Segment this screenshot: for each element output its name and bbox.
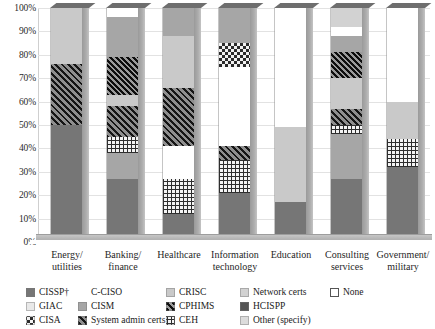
- bar-segment-ceh: [387, 139, 418, 167]
- x-axis-tick-label-line: utilities: [38, 261, 96, 273]
- bar-segment-crisc: [163, 36, 194, 87]
- legend-item-crisc[interactable]: CRISC: [166, 286, 206, 298]
- legend-swatch-crisc-icon: [166, 288, 175, 297]
- y-axis-tick-label: 90%: [2, 26, 36, 36]
- legend-item-cisa[interactable]: CISA: [26, 314, 61, 326]
- bar-segment-cphims: [107, 57, 138, 94]
- legend-swatch-hcispp-icon: [240, 302, 249, 311]
- legend-swatch-sysadmin-icon: [78, 316, 87, 325]
- bar-front-face: [162, 8, 194, 242]
- legend-item-network[interactable]: Network certs: [240, 286, 307, 298]
- legend-label: C-CISO: [91, 287, 122, 297]
- chart-baseline-cap: [30, 240, 432, 244]
- bar-segment-crisc: [51, 8, 82, 64]
- y-axis: 100%90%80%70%60%50%40%30%20%10%0%: [0, 0, 36, 252]
- bar-segment-cissp: [387, 167, 418, 242]
- bar-stack: [50, 8, 82, 242]
- chart-legend: CISSP†GIACCISAC-CISOCISMSystem admin cer…: [0, 286, 435, 329]
- legend-swatch-other-icon: [240, 316, 249, 325]
- bar-stack: [330, 8, 362, 242]
- x-axis-tick-label-line: Banking/: [94, 249, 152, 261]
- bar-segment-cciso: [107, 8, 138, 17]
- bar-segment-cissp: [51, 125, 82, 242]
- x-axis-tick-label: Informationtechnology: [206, 249, 264, 272]
- legend-label: GIAC: [39, 301, 62, 311]
- bar-segment-crisc: [107, 95, 138, 107]
- bar-stack: [274, 8, 306, 242]
- legend-label: System admin certs: [91, 315, 165, 325]
- bar-stack: [218, 8, 250, 242]
- bar-segment-sysadmin: [51, 64, 82, 125]
- bar-segment-cciso: [275, 8, 306, 127]
- bar-segment-ceh: [163, 179, 194, 214]
- x-axis-tick-label-line: technology: [206, 261, 264, 273]
- legend-swatch-giac-icon: [26, 302, 35, 311]
- x-axis-tick-label-line: Government/: [374, 249, 432, 261]
- bar-segment-cissp: [331, 179, 362, 242]
- bar-front-face: [218, 8, 250, 242]
- bar-stack: [162, 8, 194, 242]
- legend-swatch-cisa-icon: [26, 316, 35, 325]
- legend-item-giac[interactable]: GIAC: [26, 300, 62, 312]
- bar-segment-sysadmin: [331, 109, 362, 125]
- legend-label: HCISPP: [253, 301, 285, 311]
- bar-side-face: [418, 4, 425, 242]
- legend-item-cism[interactable]: CISM: [78, 300, 114, 312]
- x-axis-tick-label: Healthcare: [150, 249, 208, 261]
- legend-label: CISA: [39, 315, 61, 325]
- bar-segment-cism: [163, 8, 194, 36]
- x-axis-tick-label: Banking/finance: [94, 249, 152, 272]
- bar-segment-sysadmin: [219, 146, 250, 160]
- x-axis-tick-label-line: Education: [262, 249, 320, 261]
- bar-side-face: [306, 4, 313, 242]
- legend-item-sysadmin[interactable]: System admin certs: [78, 314, 165, 326]
- x-axis-tick-label-line: Consulting: [318, 249, 376, 261]
- bar-side-face: [138, 4, 145, 242]
- bar-segment-sysadmin: [107, 106, 138, 136]
- bar-segment-crisc: [387, 102, 418, 139]
- bar-segment-cism: [107, 153, 138, 179]
- legend-label: CPHIMS: [179, 301, 214, 311]
- legend-label: CISSP†: [39, 287, 69, 297]
- bar-segment-cciso: [219, 67, 250, 147]
- legend-item-ceh[interactable]: CEH: [166, 314, 198, 326]
- bar-side-face: [194, 4, 201, 242]
- bar-segment-crisc: [275, 127, 306, 202]
- legend-swatch-cissp-icon: [26, 288, 35, 297]
- bar-segment-cisa: [219, 43, 250, 66]
- x-axis-tick-label-line: services: [318, 261, 376, 273]
- legend-item-cissp[interactable]: CISSP†: [26, 286, 69, 298]
- stacked-bar-chart: 100%90%80%70%60%50%40%30%20%10%0% Energy…: [0, 0, 435, 252]
- legend-item-hcispp[interactable]: HCISPP: [240, 300, 285, 312]
- bar-side-face: [82, 4, 89, 242]
- x-axis-tick-label: Consultingservices: [318, 249, 376, 272]
- legend-item-cciso[interactable]: C-CISO: [78, 286, 122, 298]
- y-axis-tick-label: 10%: [2, 214, 36, 224]
- x-axis-tick-label-line: Healthcare: [150, 249, 208, 261]
- legend-label: CISM: [91, 301, 114, 311]
- x-axis-tick-label-line: finance: [94, 261, 152, 273]
- y-axis-tick-label: 30%: [2, 167, 36, 177]
- legend-item-none[interactable]: None: [330, 286, 364, 298]
- legend-swatch-none-icon: [330, 288, 339, 297]
- legend-item-cphims[interactable]: CPHIMS: [166, 300, 214, 312]
- y-axis-tick-label: 60%: [2, 97, 36, 107]
- bar-segment-cissp: [107, 179, 138, 242]
- y-axis-tick-label: 100%: [2, 3, 36, 13]
- y-axis-tick-label: 80%: [2, 50, 36, 60]
- bar-front-face: [50, 8, 82, 242]
- y-axis-tick-label: 50%: [2, 120, 36, 130]
- legend-swatch-network-icon: [240, 288, 249, 297]
- bar-segment-network: [331, 8, 362, 27]
- bar-front-face: [106, 8, 138, 242]
- bar-stack: [106, 8, 138, 242]
- legend-swatch-ceh-icon: [166, 316, 175, 325]
- y-axis-tick-label: 40%: [2, 143, 36, 153]
- legend-item-other[interactable]: Other (specify): [240, 314, 311, 326]
- bar-segment-crisc: [331, 78, 362, 108]
- x-axis-labels: Energy/utilitiesBanking/financeHealthcar…: [38, 249, 430, 283]
- legend-label: None: [343, 287, 364, 297]
- bar-front-face: [274, 8, 306, 242]
- x-axis-tick-label-line: military: [374, 261, 432, 273]
- bar-segment-cism: [331, 36, 362, 52]
